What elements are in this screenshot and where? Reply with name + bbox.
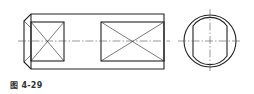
chamfer-detail-top bbox=[24, 21, 31, 28]
front-view bbox=[24, 14, 164, 69]
chamfer-detail-bottom bbox=[24, 55, 31, 62]
figure-caption: 图 4-29 bbox=[10, 79, 43, 90]
